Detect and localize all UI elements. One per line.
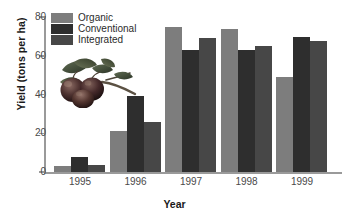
legend-item-organic: Organic: [51, 12, 136, 23]
x-axis-title: Year: [0, 198, 349, 210]
chart-legend: OrganicConventionalIntegrated: [51, 12, 136, 45]
bar: [199, 38, 216, 172]
y-tick-label: 40: [14, 90, 46, 100]
bar-group: [276, 17, 327, 172]
bar: [310, 41, 327, 172]
x-tick-label: 1996: [108, 176, 164, 187]
apples-on-branch-photo: [56, 56, 138, 108]
x-tick-label: 1999: [274, 176, 330, 187]
bar: [255, 46, 272, 172]
bar: [71, 157, 88, 173]
bar-group: [165, 17, 216, 172]
legend-swatch-icon: [51, 35, 73, 45]
legend-label: Integrated: [78, 35, 123, 45]
bar: [221, 29, 238, 172]
x-tick-label: 1998: [219, 176, 275, 187]
bar-chart-figure: Yield (tons per ha) 020406080 1995199619…: [0, 0, 349, 220]
legend-label: Conventional: [78, 24, 136, 34]
legend-item-conventional: Conventional: [51, 23, 136, 34]
y-tick-label: 20: [14, 128, 46, 138]
bar: [88, 165, 105, 172]
bar: [165, 27, 182, 172]
y-tick-label: 80: [14, 12, 46, 22]
bar: [54, 166, 71, 172]
bar: [293, 37, 310, 172]
legend-label: Organic: [78, 13, 113, 23]
x-axis-line: [44, 172, 342, 174]
bar: [110, 131, 127, 172]
legend-swatch-icon: [51, 24, 73, 34]
bar: [182, 50, 199, 172]
bar: [238, 50, 255, 172]
bar: [144, 122, 161, 172]
y-tick-label: 60: [14, 51, 46, 61]
x-tick-label: 1997: [163, 176, 219, 187]
bar: [276, 77, 293, 172]
bar-group: [221, 17, 272, 172]
legend-swatch-icon: [51, 13, 73, 23]
x-tick-label: 1995: [52, 176, 108, 187]
legend-item-integrated: Integrated: [51, 34, 136, 45]
y-tick-label: 0: [14, 167, 46, 177]
